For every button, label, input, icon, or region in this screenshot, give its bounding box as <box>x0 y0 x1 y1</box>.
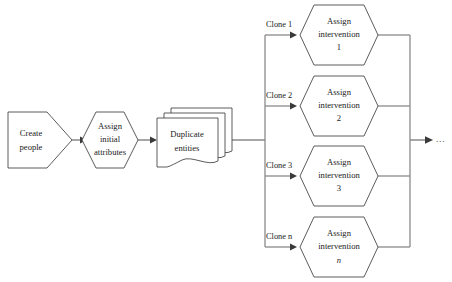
arrowhead-output <box>425 136 433 144</box>
output-continuation-label: ... <box>436 133 445 144</box>
branch-2-label-line2: intervention <box>318 100 360 110</box>
branch-2-label-line3: 2 <box>337 113 341 123</box>
branch-n-edge-label: Clone n <box>266 232 293 241</box>
duplicate-entities-label-line1: Duplicate <box>170 129 204 139</box>
branch-3-label-line3: 3 <box>337 183 341 193</box>
branch-1-label-line3: 1 <box>337 42 341 52</box>
branch-3-label-line1: Assign <box>327 157 352 167</box>
create-people-label-line2: people <box>20 142 43 152</box>
branch-2-edge-label: Clone 2 <box>266 91 292 100</box>
branch-assign-intervention-n[interactable]: Assign intervention n <box>300 217 378 277</box>
arrowhead-branch-n <box>290 244 297 251</box>
node-create-people[interactable]: Create people <box>8 112 72 168</box>
node-assign-initial-attributes[interactable]: Assign initial attributes <box>82 112 138 168</box>
branch-2-label-line1: Assign <box>327 87 352 97</box>
arrowhead-branch-1 <box>290 32 297 39</box>
branch-n-label-line1: Assign <box>327 228 352 238</box>
duplicate-entities-label-line2: entities <box>175 143 200 153</box>
arrowhead-attributes-to-duplicate <box>150 137 157 144</box>
branch-3-label-line2: intervention <box>318 170 360 180</box>
assign-initial-attributes-label-line1: Assign <box>98 121 123 131</box>
branch-n-label-line2: intervention <box>318 241 360 251</box>
flowchart-canvas: Create people Assign initial attributes … <box>0 0 452 282</box>
branch-assign-intervention-3[interactable]: Assign intervention 3 <box>300 146 378 206</box>
branch-1-edge-label: Clone 1 <box>266 20 292 29</box>
branch-assign-intervention-1[interactable]: Assign intervention 1 <box>300 5 378 65</box>
node-duplicate-entities[interactable]: Duplicate entities <box>157 108 232 167</box>
branch-assign-intervention-2[interactable]: Assign intervention 2 <box>300 76 378 136</box>
flowchart-svg: Create people Assign initial attributes … <box>0 0 452 282</box>
branch-n-label-line3: n <box>337 255 341 265</box>
branch-3-edge-label: Clone 3 <box>266 161 292 170</box>
branch-1-label-line1: Assign <box>327 16 352 26</box>
assign-initial-attributes-label-line2: initial <box>100 134 121 144</box>
arrowhead-branch-2 <box>290 103 297 110</box>
create-people-label-line1: Create <box>20 128 43 138</box>
branch-1-label-line2: intervention <box>318 29 360 39</box>
assign-initial-attributes-label-line3: attributes <box>94 147 127 157</box>
create-people-shape <box>8 112 72 168</box>
arrowhead-branch-3 <box>290 173 297 180</box>
